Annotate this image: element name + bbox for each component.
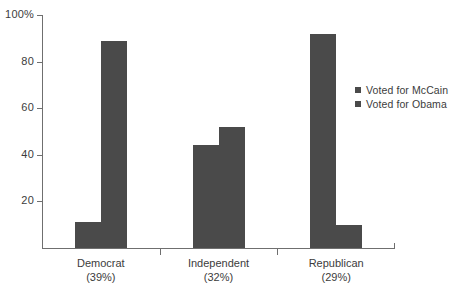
y-axis-label: 60 [21,101,34,113]
category-name: Republican [309,257,364,269]
category-name: Independent [188,257,249,269]
x-axis-tick [160,249,161,255]
x-axis-category-label: Republican(29%) [277,256,395,284]
bar [193,145,219,248]
category-name: Democrat [77,257,125,269]
y-axis-tick [37,62,42,63]
legend-label-mccain: Voted for McCain [366,84,448,96]
bar [75,222,101,248]
legend-item-obama: Voted for Obama [355,98,448,110]
bar [336,225,362,248]
chart-container: 100%80604020 Democrat(39%)Independent(32… [0,0,465,285]
category-share: (32%) [160,270,278,284]
y-axis-label: 20 [21,194,34,206]
x-axis-category-label: Democrat(39%) [42,256,160,284]
bar [310,34,336,248]
x-axis-tick [277,249,278,255]
y-axis-tick [37,108,42,109]
y-axis-tick [37,15,42,16]
x-axis-right-cap [394,243,395,249]
y-axis-line [42,15,43,248]
legend-label-obama: Voted for Obama [366,98,447,110]
legend: Voted for McCain Voted for Obama [355,84,448,112]
legend-swatch-icon [355,87,361,93]
bar [101,41,127,248]
y-axis-label: 80 [21,55,34,67]
legend-swatch-icon [355,101,361,107]
category-share: (29%) [277,270,395,284]
y-axis-label: 40 [21,148,34,160]
y-axis-label: 100% [5,8,34,20]
y-axis-tick [37,155,42,156]
category-share: (39%) [42,270,160,284]
legend-item-mccain: Voted for McCain [355,84,448,96]
x-axis-line [42,248,395,249]
bar [219,127,245,248]
y-axis-tick [37,201,42,202]
x-axis-category-label: Independent(32%) [160,256,278,284]
